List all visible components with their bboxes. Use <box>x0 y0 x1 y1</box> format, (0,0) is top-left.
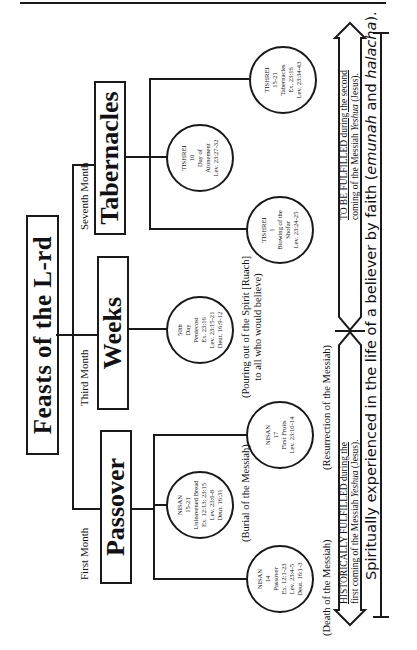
spiritual-experience-text: Spiritually experienced in the life of a… <box>363 11 379 580</box>
bottom-halacha: halacha <box>363 22 379 79</box>
future-line2-c: (Jesus). <box>350 73 360 104</box>
bottom-text-c: and <box>363 79 379 116</box>
past-line1: HISTORICALLY FULFILLED during the <box>339 439 350 604</box>
bottom-emunah: emunah <box>363 115 379 175</box>
past-line2: first coming of the Messiah Yeshua (Jesu… <box>350 439 361 604</box>
future-fulfillment-text: TO BE FULFILLED during the second coming… <box>339 70 360 220</box>
rotated-page: Feasts of the L-rd First Month Third Mon… <box>0 0 417 650</box>
past-line2-c: (Jesus). <box>350 439 360 470</box>
bottom-text-e: ). <box>363 11 379 21</box>
bottom-text-a: Spiritually experienced in the life of a… <box>363 175 379 580</box>
past-line2-a: first coming of the Messiah <box>350 497 360 604</box>
future-line2-yeshua: Yeshua <box>350 104 360 131</box>
future-line2: coming of the Messiah Yeshua (Jesus). <box>350 70 361 220</box>
future-line2-a: coming of the Messiah <box>350 131 360 220</box>
past-line2-yeshua: Yeshua <box>350 471 360 498</box>
future-line1: TO BE FULFILLED during the second <box>339 70 350 220</box>
past-fulfillment-text: HISTORICALLY FULFILLED during the first … <box>339 439 360 604</box>
